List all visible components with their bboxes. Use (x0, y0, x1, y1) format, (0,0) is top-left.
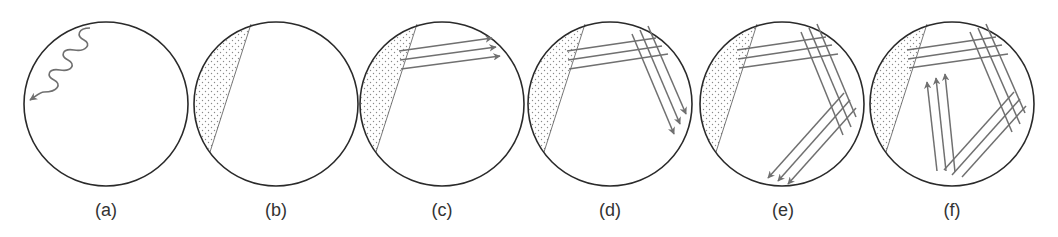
panel-label-a: (a) (76, 200, 136, 221)
panel-label-e: (e) (753, 200, 813, 221)
panel-c (346, 20, 524, 186)
panel-a (24, 22, 188, 186)
ray-bundle (907, 24, 1026, 177)
panel-b (180, 20, 358, 186)
panel-f (856, 20, 1034, 186)
circle-a (24, 22, 188, 186)
panel-label-f: (f) (922, 200, 982, 221)
dotted-sliver (180, 20, 251, 152)
wavy-arrow-icon (30, 28, 90, 100)
panel-e (686, 20, 864, 186)
panel-label-d: (d) (580, 200, 640, 221)
dotted-sliver (686, 20, 757, 152)
panel-label-c: (c) (412, 200, 472, 221)
ray-bundle (567, 26, 686, 134)
dotted-sliver (514, 20, 585, 152)
dotted-sliver (856, 20, 927, 152)
ray-bundle (399, 38, 500, 69)
panel-label-b: (b) (246, 200, 306, 221)
ray-bundle (737, 24, 856, 184)
figure-canvas (0, 0, 1058, 237)
panel-d (514, 20, 692, 186)
